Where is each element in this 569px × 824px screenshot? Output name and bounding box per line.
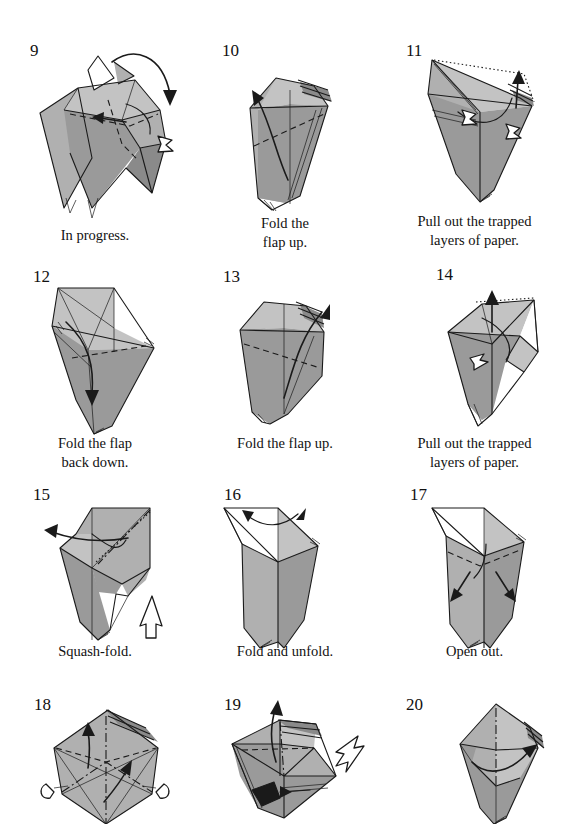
step-13-figure bbox=[226, 292, 346, 432]
step-14-figure bbox=[434, 280, 554, 432]
step-20-figure bbox=[442, 700, 552, 824]
step-12-figure bbox=[28, 282, 158, 437]
step-15: 15 bbox=[0, 478, 190, 686]
step-16-caption: Fold and unfold. bbox=[190, 642, 380, 661]
step-18-figure bbox=[40, 706, 170, 824]
step-16: 16 Fold and unfold. bbox=[190, 478, 380, 686]
step-12-caption: Fold the flap back down. bbox=[0, 434, 190, 471]
step-9-figure bbox=[30, 48, 175, 228]
step-19: 19 bbox=[190, 686, 380, 824]
step-11-figure bbox=[420, 54, 550, 214]
step-14: 14 Pull ou bbox=[380, 258, 569, 476]
step-11: 11 Pull out the tra bbox=[380, 30, 569, 260]
step-12: 12 Fold the flap back down. bbox=[0, 258, 190, 476]
step-9: 9 bbox=[0, 30, 190, 260]
step-15-caption: Squash-fold. bbox=[0, 642, 190, 661]
step-10: 10 Fold the flap up. bbox=[190, 30, 380, 260]
step-13-caption: Fold the flap up. bbox=[190, 434, 380, 453]
step-14-caption: Pull out the trapped layers of paper. bbox=[380, 434, 569, 471]
step-19-figure bbox=[218, 700, 368, 824]
step-18: 18 bbox=[0, 686, 190, 824]
step-number-20: 20 bbox=[406, 696, 423, 713]
step-10-figure bbox=[228, 68, 348, 218]
origami-instruction-page: 9 bbox=[0, 0, 569, 824]
step-17: 17 Open out. bbox=[380, 478, 569, 686]
step-number-16: 16 bbox=[224, 486, 241, 503]
step-9-caption: In progress. bbox=[0, 226, 190, 245]
step-13: 13 Fold the flap up. bbox=[190, 258, 380, 476]
step-number-10: 10 bbox=[222, 42, 239, 59]
step-17-figure bbox=[424, 500, 544, 650]
step-17-caption: Open out. bbox=[380, 642, 569, 661]
step-11-caption: Pull out the trapped layers of paper. bbox=[380, 212, 569, 249]
step-16-figure bbox=[218, 502, 348, 652]
step-number-13: 13 bbox=[223, 268, 240, 285]
step-15-figure bbox=[40, 500, 170, 650]
step-10-caption: Fold the flap up. bbox=[190, 214, 380, 251]
step-20: 20 bbox=[380, 686, 569, 824]
